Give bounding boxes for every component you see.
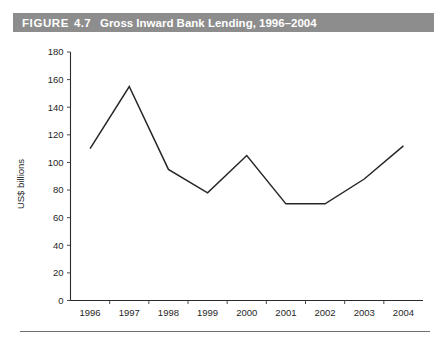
chart-container: 020406080100120140160180 199619971998199… [0,34,447,319]
x-axis-tick-labels: 199619971998199920002001200220032004 [80,307,414,318]
y-tick-label: 100 [48,157,64,168]
y-tick-label: 160 [48,74,64,85]
figure-title-bar: FIGURE 4.7 Gross Inward Bank Lending, 19… [13,13,434,32]
x-tick-label: 1997 [119,307,140,318]
y-tick-label: 0 [58,295,63,306]
x-tick-label: 1996 [80,307,101,318]
x-tick-label: 1998 [158,307,179,318]
y-axis-tick-labels: 020406080100120140160180 [48,46,64,306]
x-tick-label: 2000 [236,307,257,318]
figure-title-text: Gross Inward Bank Lending, 1996–2004 [100,17,317,29]
chart-axes [71,52,424,301]
figure-label: FIGURE [22,17,69,29]
footer-rule [20,331,430,332]
y-tick-label: 80 [53,184,64,195]
x-tick-label: 2003 [354,307,375,318]
y-tick-label: 140 [48,102,64,113]
y-tick-label: 120 [48,129,64,140]
x-tick-label: 2004 [393,307,414,318]
x-tick-label: 2002 [315,307,336,318]
y-tick-label: 20 [53,267,64,278]
x-tick-label: 2001 [275,307,296,318]
y-tick-label: 40 [53,240,64,251]
line-chart: 020406080100120140160180 199619971998199… [0,34,447,319]
y-tick-label: 60 [53,212,64,223]
x-tick-label: 1999 [197,307,218,318]
axis-lines [71,52,424,301]
y-tick-label: 180 [48,46,64,57]
y-axis-title: US$ billions [15,159,26,209]
figure-number: 4.7 [74,17,91,29]
data-series-line [90,87,403,204]
